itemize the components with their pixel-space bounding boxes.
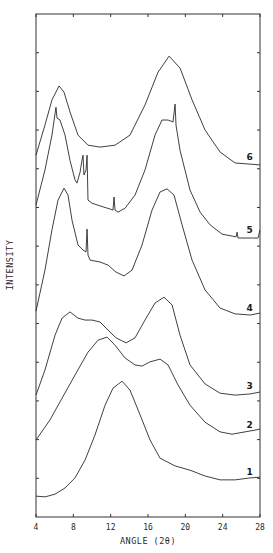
x-tick-label: 24	[218, 523, 228, 532]
curve-label-2: 2	[247, 420, 253, 430]
x-tick-label: 28	[255, 523, 265, 532]
curve-label-6: 6	[247, 152, 253, 162]
x-tick-label: 8	[71, 523, 76, 532]
x-tick-label: 12	[106, 523, 116, 532]
x-tick-label: 16	[143, 523, 153, 532]
curve-5	[36, 104, 260, 238]
x-tick-label: 4	[34, 523, 39, 532]
curve-2	[36, 337, 260, 440]
curve-label-3: 3	[247, 381, 253, 391]
curve-label-5: 5	[247, 225, 253, 235]
x-tick-label: 20	[181, 523, 191, 532]
curve-label-4: 4	[247, 303, 253, 313]
plot-frame	[36, 14, 260, 517]
xrd-intensity-chart: 481216202428 123456 ANGLE (2θ) INTENSITY	[0, 0, 273, 553]
curve-1	[36, 381, 260, 497]
diffraction-curves	[36, 56, 260, 497]
curve-4	[36, 188, 260, 315]
y-axis-label: INTENSITY	[5, 240, 15, 291]
x-axis-label: ANGLE (2θ)	[120, 536, 176, 546]
curve-label-1: 1	[247, 467, 253, 477]
x-axis-ticks	[36, 14, 260, 517]
curve-6	[36, 56, 260, 165]
y-axis-ticks	[36, 53, 260, 479]
curve-3	[36, 297, 260, 395]
x-axis-tick-labels: 481216202428	[34, 523, 265, 532]
